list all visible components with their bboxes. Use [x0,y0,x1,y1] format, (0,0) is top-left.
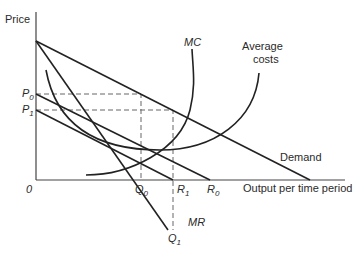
r1-label: R1 [177,183,189,198]
mc-label: MC [184,36,201,48]
demand-label: Demand [280,151,322,163]
average-costs-label-1: Average [242,40,283,52]
x-axis-label: Output per time period [243,182,352,194]
mr-label: MR [188,216,205,228]
p0-label: P0 [22,87,34,102]
p1-r1-line [36,110,173,180]
mr-curve [36,41,168,230]
y-axis-label: Price [5,13,30,25]
r0-label: R0 [207,183,220,198]
origin-label: 0 [26,183,33,195]
economics-diagram: Price Output per time period 0 MC Averag… [0,0,356,254]
q0-label: Q0 [135,183,149,198]
p1-label: P1 [22,103,34,118]
p0-r0-line [36,94,210,180]
average-costs-label-2: costs [253,53,279,65]
q1-label: Q1 [168,232,181,247]
